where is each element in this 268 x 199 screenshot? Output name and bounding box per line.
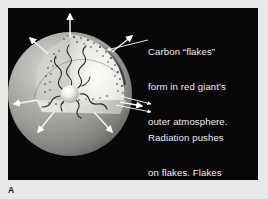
arrow-upper-right (112, 36, 132, 52)
leader-carbon-flakes (107, 40, 148, 50)
annotation-radiation: Radiation pushes on flakes. Flakes push … (148, 109, 228, 180)
annotation-carbon-flakes-line-2: form in red giant’s (148, 81, 228, 93)
annotation-radiation-line-1: Radiation pushes (148, 132, 228, 144)
figure-container: Carbon “flakes” form in red giant’s oute… (0, 0, 268, 199)
annotation-radiation-line-2: on flakes. Flakes (148, 167, 228, 179)
figure-label: A (8, 185, 14, 195)
illustration-panel: Carbon “flakes” form in red giant’s oute… (8, 8, 258, 180)
stellar-core (61, 85, 79, 103)
annotation-carbon-flakes-line-1: Carbon “flakes” (148, 46, 228, 58)
